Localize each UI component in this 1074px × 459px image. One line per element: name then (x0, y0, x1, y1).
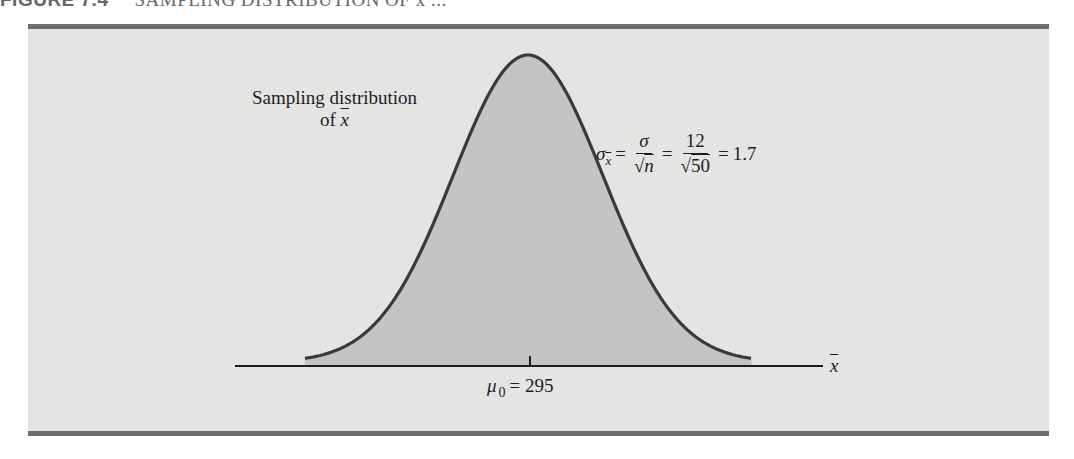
distribution-label-line2: of x (232, 109, 437, 131)
distribution-label: Sampling distribution of x (232, 87, 437, 131)
sigma-xbar: σx (596, 143, 611, 165)
mu-symbol: μ (487, 375, 497, 396)
xbar-symbol: x (341, 109, 349, 130)
standard-error-value: 1.7 (733, 143, 757, 165)
sqrt-symbol: √ (681, 155, 691, 176)
sqrt-symbol: √ (634, 155, 644, 176)
xbar-symbol: x (830, 355, 838, 376)
mean-value: 295 (525, 375, 554, 396)
fraction-sigma-over-root-n: σ √n (634, 131, 654, 177)
fraction-12-over-root-50: 12 √50 (681, 131, 710, 177)
standard-error-formula: σx = σ √n = 12 √50 = 1.7 (596, 131, 756, 177)
mean-label: μ0= 295 (487, 375, 554, 397)
distribution-label-line1: Sampling distribution (232, 87, 437, 109)
x-axis-label: x (830, 355, 838, 377)
